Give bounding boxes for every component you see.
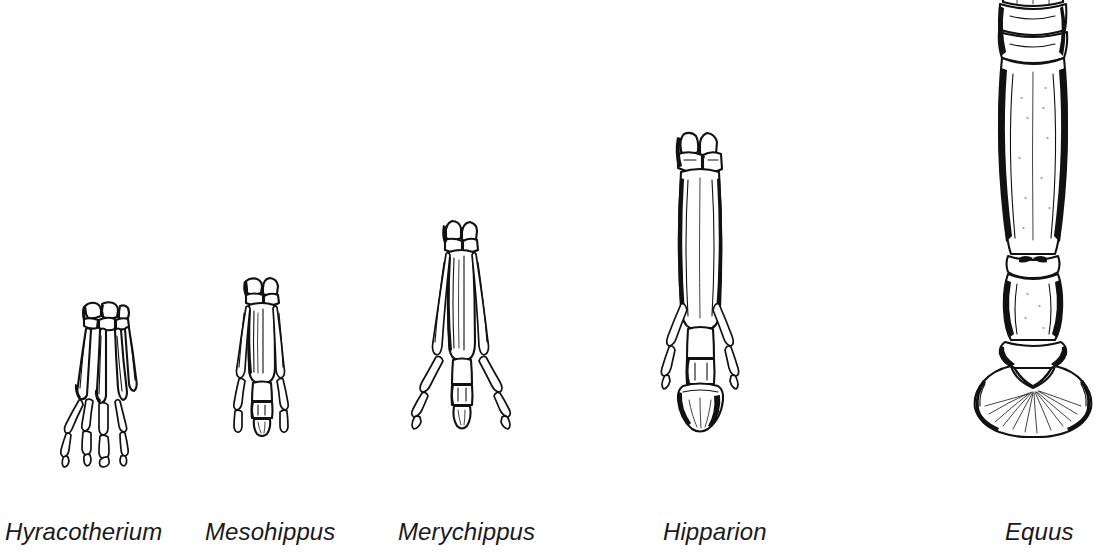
mesohippus-toe-left: [234, 378, 245, 432]
equus-pastern-bones: [1004, 274, 1062, 340]
hipparion-toe-right: [713, 304, 739, 389]
equus-carpal-bones: [998, 0, 1067, 63]
specimen-merychippus-illustration: [405, 218, 520, 438]
specimen-hipparion-illustration: [650, 128, 760, 436]
hipparion-hoof: [678, 384, 723, 432]
hipparion-central-digit: [686, 327, 715, 384]
merychippus-toe-right: [479, 357, 510, 430]
mesohippus-toe-central: [251, 382, 273, 437]
equus-fetlock-joint: [1007, 256, 1060, 278]
specimen-equus-illustration: [955, 0, 1107, 438]
hyracotherium-metapodials: [75, 327, 137, 403]
hyracotherium-toe-1: [61, 400, 83, 467]
mesohippus-proximal-bones: [243, 278, 279, 305]
hipparion-proximal-bones: [676, 133, 722, 172]
genus-label-equus: Equus: [1005, 520, 1074, 544]
merychippus-toe-central: [451, 359, 473, 429]
merychippus-toe-left: [412, 357, 443, 430]
genus-label-row: Hyracotherium Mesohippus Merychippus Hip…: [0, 520, 1107, 560]
equus-hoof: [975, 366, 1092, 437]
specimen-hyracotherium-illustration: [55, 300, 155, 468]
specimen-illustrations: [0, 0, 1107, 560]
equus-short-pastern: [1000, 342, 1067, 368]
hipparion-toe-left: [661, 304, 687, 389]
genus-label-merychippus: Merychippus: [398, 520, 535, 544]
specimen-mesohippus-illustration: [215, 275, 310, 437]
merychippus-proximal-bones: [442, 221, 478, 252]
genus-label-hyracotherium: Hyracotherium: [5, 520, 162, 544]
hyracotherium-toe-4: [115, 400, 128, 466]
horse-foot-evolution-figure: Hyracotherium Mesohippus Merychippus Hip…: [0, 0, 1107, 560]
merychippus-metapodials: [433, 250, 489, 359]
hyracotherium-proximal-bones: [82, 302, 129, 330]
equus-cannon-bone: [998, 58, 1068, 254]
mesohippus-toe-right: [277, 378, 288, 432]
mesohippus-metapodials: [236, 303, 284, 382]
genus-label-mesohippus: Mesohippus: [205, 520, 335, 544]
genus-label-hipparion: Hipparion: [663, 520, 767, 544]
hyracotherium-toe-3: [99, 403, 109, 467]
hyracotherium-toe-2: [82, 399, 93, 466]
